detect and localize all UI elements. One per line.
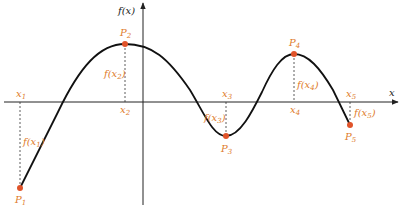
- x-axis-label: x: [389, 87, 395, 98]
- label-x5: x5: [346, 88, 357, 101]
- point-p1: [17, 185, 23, 191]
- label-fx4: f(x4): [296, 79, 319, 92]
- point-p5: [347, 122, 353, 128]
- label-p3: P3: [220, 143, 233, 156]
- label-p5: P5: [344, 131, 357, 144]
- label-fx3: f(x3): [203, 112, 226, 125]
- points: [17, 41, 353, 191]
- label-fx5: f(x5): [353, 107, 376, 120]
- label-x3: x3: [222, 88, 233, 101]
- label-p4: P4: [288, 37, 300, 50]
- point-p4: [291, 51, 297, 57]
- label-x4: x4: [290, 104, 300, 117]
- label-fx2: f(x2): [103, 68, 126, 81]
- label-p2: P2: [119, 27, 132, 40]
- y-axis-label: f(x): [117, 5, 135, 16]
- point-p3: [223, 133, 229, 139]
- label-x1: x1: [16, 88, 26, 101]
- projection-lines: [20, 44, 350, 188]
- function-curve: [20, 44, 350, 188]
- function-diagram: x f(x) P1 P2 P3 P4 P5 x1 x2 x3 x4 x5 f(x…: [0, 0, 403, 213]
- label-x2: x2: [120, 104, 131, 117]
- point-p2: [122, 41, 128, 47]
- label-p1: P1: [14, 194, 26, 207]
